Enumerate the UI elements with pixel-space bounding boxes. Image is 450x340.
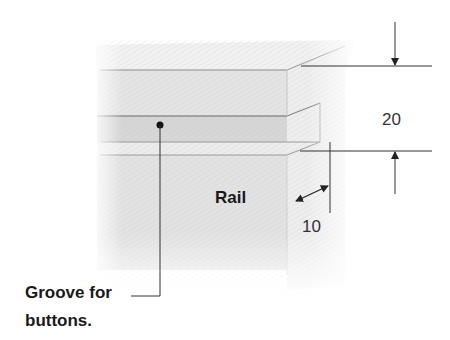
height-dimension-label: 20	[382, 110, 401, 129]
groove-caption-line1: Groove for	[25, 279, 112, 307]
depth-dimension-label: 10	[302, 217, 321, 236]
groove-caption: Groove for buttons.	[25, 279, 112, 335]
rail-label: Rail	[215, 188, 246, 207]
rail-wood-block	[90, 35, 360, 300]
groove-caption-line2: buttons.	[25, 307, 112, 335]
